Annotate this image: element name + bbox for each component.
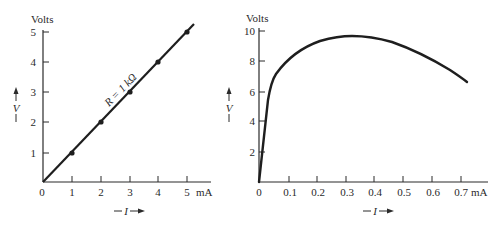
right-x-tick-label: 0.2	[311, 186, 325, 198]
right-x-tick-label: 0.7	[454, 186, 468, 198]
right-y-tick-label: 10	[244, 25, 256, 37]
arrow-right-icon	[387, 209, 394, 214]
right-x-tick-label: 0.3	[340, 186, 354, 198]
left-y-axis-symbol: V	[13, 87, 21, 122]
left-x-tick-label: 4	[155, 186, 161, 198]
left-y-tick-label: 2	[31, 116, 37, 128]
arrow-up-icon	[14, 87, 19, 94]
right-y-tick-label: 8	[250, 55, 256, 67]
left-x-unit-label: mA	[196, 186, 213, 198]
right-y-unit-label: Volts	[246, 12, 268, 24]
left-x-tick-label: 0	[39, 186, 45, 198]
right-chart: 2 4 6 8 10 0 0.1 0.2 0.3 0.4 0.5 0.6 0.7…	[226, 12, 488, 217]
right-y-axis-symbol: V	[226, 87, 234, 122]
left-x-axis-symbol: I	[114, 205, 145, 217]
left-y-tick-label: 4	[31, 56, 37, 68]
right-y-tick-label: 4	[250, 115, 256, 127]
right-x-ticks	[289, 176, 461, 182]
right-x-axis-symbol: I	[363, 205, 394, 217]
svg-text:I: I	[372, 205, 378, 217]
right-x-tick-label: 0.5	[397, 186, 411, 198]
left-chart: 1 2 3 4 5 0 1 2 3 4 5 mA Volts V I	[13, 13, 213, 217]
right-x-tick-label: 0.1	[283, 186, 297, 198]
left-x-tick-label: 1	[69, 186, 75, 198]
svg-text:I: I	[123, 205, 129, 217]
svg-text:V: V	[13, 102, 21, 114]
left-x-tick-label: 2	[98, 186, 104, 198]
right-data-curve	[259, 36, 467, 182]
left-y-tick-label: 1	[31, 147, 37, 159]
svg-text:V: V	[226, 102, 234, 114]
right-x-tick-label: 0.6	[426, 186, 440, 198]
arrow-up-icon	[227, 87, 232, 94]
left-y-tick-label: 5	[31, 26, 37, 38]
left-y-unit-label: Volts	[31, 13, 53, 25]
right-x-tick-label: 0.4	[368, 186, 382, 198]
left-y-ticks	[43, 32, 49, 153]
figure: 1 2 3 4 5 0 1 2 3 4 5 mA Volts V I	[0, 0, 501, 229]
left-annotation: R = 1 kΩ	[101, 71, 139, 109]
right-x-tick-label: 0	[256, 186, 262, 198]
left-x-tick-label: 5	[184, 186, 190, 198]
left-x-tick-label: 3	[127, 186, 133, 198]
arrow-right-icon	[138, 209, 145, 214]
left-y-tick-label: 3	[31, 86, 37, 98]
left-x-ticks	[72, 176, 187, 182]
right-y-tick-label: 2	[250, 146, 256, 158]
left-data-line	[43, 24, 194, 182]
right-y-tick-label: 6	[250, 86, 256, 98]
right-x-unit-label: mA	[471, 186, 488, 198]
